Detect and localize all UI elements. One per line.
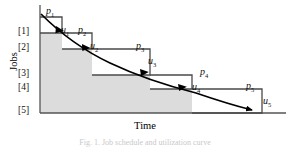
label-p4: p4: [200, 67, 208, 80]
label-u1: u1: [61, 25, 69, 38]
label-p5: p5: [246, 81, 254, 94]
y-tick-2: [2]: [18, 43, 29, 53]
y-tick-3: [3]: [18, 69, 29, 79]
x-axis-title: Time: [0, 120, 290, 131]
label-u2: u2: [90, 41, 98, 54]
label-p2: p2: [78, 25, 86, 38]
shaded-area: [40, 33, 192, 113]
figure-scheduling-diagram: [1] [2] [3] [4] [5] p1 p2 p3 p4 p5 u1 u2…: [0, 0, 290, 147]
label-u3: u3: [148, 56, 156, 69]
y-axis-title: Jobs: [8, 39, 19, 85]
label-p1: p1: [46, 6, 54, 19]
label-u5: u5: [263, 96, 271, 109]
y-tick-1: [1]: [18, 27, 29, 37]
figure-caption: Fig. 1. Job schedule and utilization cur…: [0, 138, 290, 147]
y-tick-4: [4]: [18, 83, 29, 93]
label-p3: p3: [136, 41, 144, 54]
y-tick-5: [5]: [18, 106, 29, 116]
label-u4: u4: [192, 82, 200, 95]
